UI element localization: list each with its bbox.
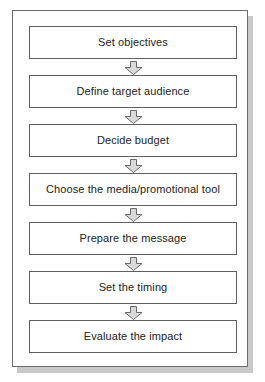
flow-step-label: Set the timing	[99, 281, 168, 294]
diagram-canvas: Set objectives Define target audience De…	[0, 0, 265, 382]
flow-step-6[interactable]: Set the timing	[29, 271, 237, 304]
down-arrow-icon	[124, 257, 143, 271]
flow-step-label: Evaluate the impact	[84, 330, 183, 343]
flow-step-4[interactable]: Choose the media/promotional tool	[29, 173, 237, 206]
flow-step-label: Decide budget	[97, 134, 169, 147]
down-arrow-icon	[124, 208, 143, 222]
flow-step-7[interactable]: Evaluate the impact	[29, 320, 237, 353]
flow-step-label: Prepare the message	[79, 232, 186, 245]
flow-step-3[interactable]: Decide budget	[29, 124, 237, 157]
flowchart-steps-container: Set objectives Define target audience De…	[29, 26, 237, 353]
flow-step-label: Choose the media/promotional tool	[46, 183, 220, 196]
flow-step-label: Define target audience	[77, 85, 190, 98]
flow-step-2[interactable]: Define target audience	[29, 75, 237, 108]
flow-step-label: Set objectives	[98, 36, 168, 49]
flow-step-1[interactable]: Set objectives	[29, 26, 237, 59]
down-arrow-icon	[124, 61, 143, 75]
down-arrow-icon	[124, 110, 143, 124]
flow-step-5[interactable]: Prepare the message	[29, 222, 237, 255]
down-arrow-icon	[124, 159, 143, 173]
diagram-outer-frame: Set objectives Define target audience De…	[12, 10, 248, 367]
down-arrow-icon	[124, 306, 143, 320]
